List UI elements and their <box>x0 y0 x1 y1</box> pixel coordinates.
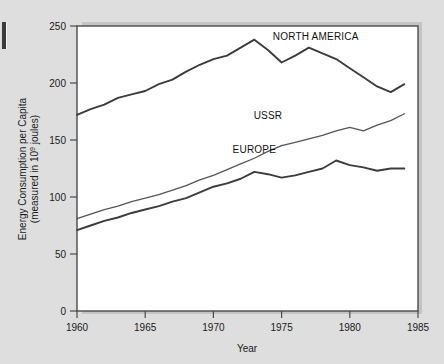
series-label-north-america: NORTH AMERICA <box>273 31 359 42</box>
y-axis-title-line1: Energy Consumption per Capita <box>17 97 28 240</box>
x-tick-label: 1965 <box>134 322 157 333</box>
x-tick-label: 1960 <box>66 322 89 333</box>
series-label-ussr: USSR <box>254 110 283 121</box>
line-chart: 0 50 100 150 200 250 1960 1965 1970 1975… <box>0 0 444 364</box>
y-axis-title-prefix: (measured in 10 <box>29 151 40 224</box>
y-axis-title-suffix: joules) <box>29 115 40 147</box>
x-tick-label: 1985 <box>407 322 430 333</box>
x-axis-title: Year <box>237 343 258 354</box>
y-tick-labels: 0 50 100 150 200 250 <box>49 21 66 317</box>
series-label-europe: EUROPE <box>233 144 277 155</box>
y-tick-label: 150 <box>49 135 66 146</box>
x-tick-labels: 1960 1965 1970 1975 1980 1985 <box>66 322 430 333</box>
chart-figure: 0 50 100 150 200 250 1960 1965 1970 1975… <box>0 0 444 364</box>
y-tick-label: 200 <box>49 78 66 89</box>
x-tick-label: 1975 <box>270 322 293 333</box>
y-tick-label: 50 <box>55 249 67 260</box>
y-axis-title-line2: (measured in 109 joules) <box>29 115 40 223</box>
y-tick-label: 250 <box>49 21 66 32</box>
x-tick-label: 1970 <box>202 322 225 333</box>
y-tick-label: 0 <box>60 306 66 317</box>
y-axis-ticks <box>70 26 77 311</box>
x-tick-label: 1980 <box>339 322 362 333</box>
y-axis-title: Energy Consumption per Capita (measured … <box>17 97 40 240</box>
y-tick-label: 100 <box>49 192 66 203</box>
